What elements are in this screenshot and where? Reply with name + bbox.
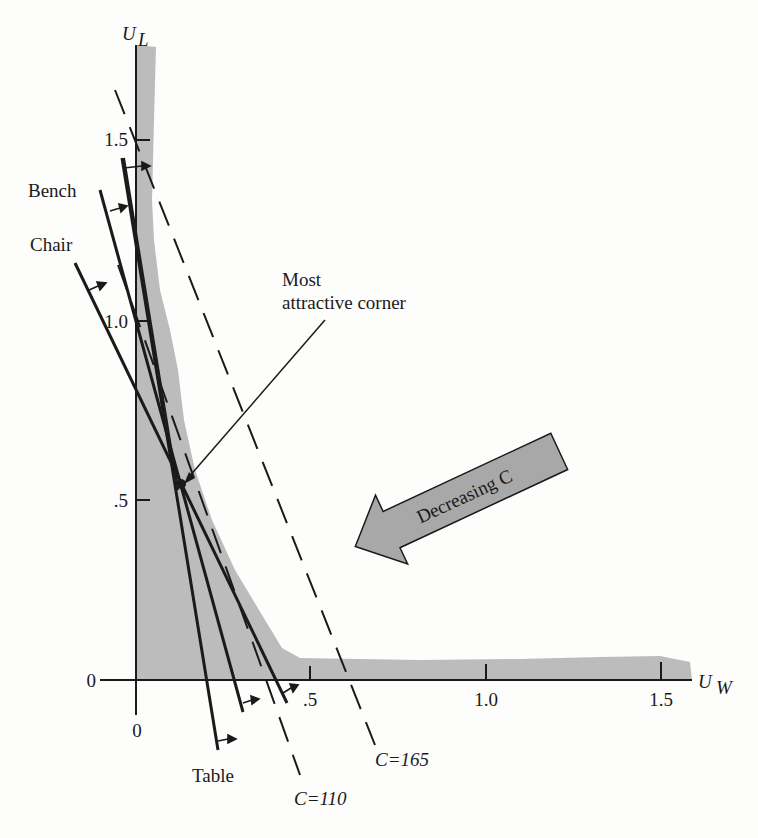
x-tick-label-1.5: 1.5 bbox=[649, 689, 673, 710]
annotation-line1: Most bbox=[282, 269, 322, 290]
y-axis-label: U bbox=[122, 23, 137, 44]
feasible-region-band bbox=[137, 45, 692, 680]
lp-diagram: Decreasing C U L U W 1.5 1.0 .5 0 0 .5 1… bbox=[0, 0, 758, 838]
y-tick-label-1.5: 1.5 bbox=[104, 129, 128, 150]
annotation-line2: attractive corner bbox=[282, 292, 407, 313]
decreasing-c-arrow-icon: Decreasing C bbox=[339, 417, 575, 581]
x-axis-label: U bbox=[698, 671, 713, 692]
bench-label: Bench bbox=[28, 180, 77, 201]
x-tick-label-0.5: .5 bbox=[303, 689, 317, 710]
x-tick-label-1.0: 1.0 bbox=[474, 689, 498, 710]
y-tick-label-1.0: 1.0 bbox=[104, 311, 128, 332]
y-tick-label-0.5: .5 bbox=[114, 490, 128, 511]
chair-label: Chair bbox=[30, 234, 73, 255]
annotation-leader-line bbox=[188, 320, 325, 478]
y-axis-subscript: L bbox=[137, 29, 149, 50]
optimal-corner-point bbox=[176, 479, 186, 489]
table-label: Table bbox=[192, 765, 234, 786]
y-tick-label-0: 0 bbox=[87, 670, 97, 691]
c165-label: C=165 bbox=[375, 749, 429, 770]
x-axis-subscript: W bbox=[716, 677, 734, 698]
c110-label: C=110 bbox=[294, 788, 347, 809]
x-tick-label-0: 0 bbox=[132, 720, 142, 741]
